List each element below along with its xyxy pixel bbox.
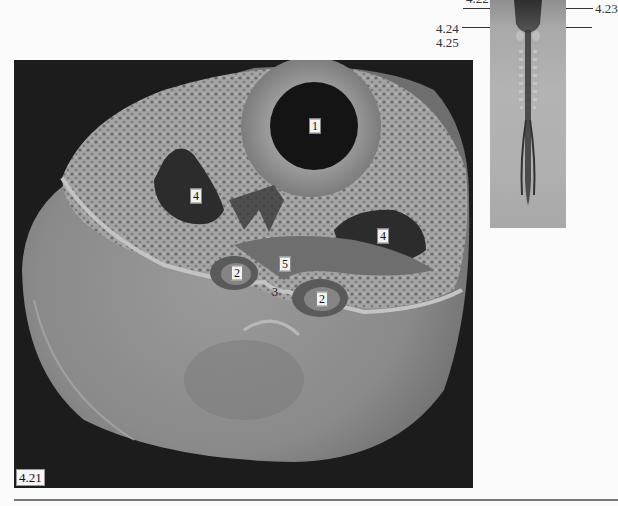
section-label-4-23: 4.23 <box>595 2 618 15</box>
sem-micrograph: 1 4 4 2 5 3 2 4.21 <box>14 60 473 488</box>
figure-number-label: 4.21 <box>16 469 45 486</box>
label-3-notch: 3 <box>270 286 280 299</box>
section-label-4-24: 4.24 <box>436 22 459 35</box>
section-label-4-22: 4.22 <box>466 0 489 5</box>
section-label-4-25: 4.25 <box>436 36 459 49</box>
sem-illustration <box>14 60 473 488</box>
label-2-left-channel: 2 <box>231 266 243 281</box>
horizontal-rule <box>14 499 618 501</box>
label-4-left-aorta: 4 <box>190 189 202 204</box>
embryo-illustration <box>490 0 566 228</box>
label-4-right-aorta: 4 <box>377 229 389 244</box>
label-5-gut: 5 <box>279 257 291 272</box>
embryo-photo <box>490 0 566 228</box>
label-1-neural-tube: 1 <box>309 119 321 134</box>
label-2-right-channel: 2 <box>316 292 328 307</box>
